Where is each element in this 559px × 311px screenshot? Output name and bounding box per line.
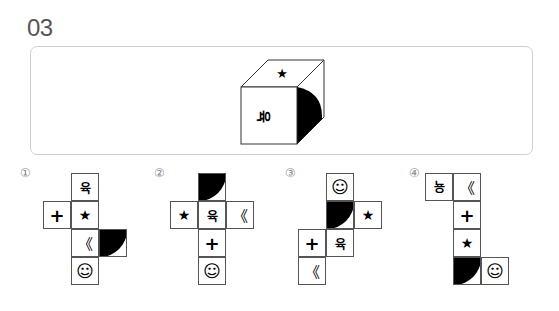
net-cell-star: ★ — [354, 201, 382, 229]
plus-icon: + — [304, 233, 319, 254]
korean-yuk-icon: 육 — [335, 235, 346, 252]
option-label-2[interactable]: ② — [154, 166, 165, 180]
net-cell-plus: + — [298, 229, 326, 257]
net-cell-star: ★ — [453, 229, 481, 257]
net-cell-quarter — [99, 229, 127, 257]
double-chevron-left-icon: 《 — [460, 177, 475, 198]
double-chevron-left-icon: 《 — [78, 233, 93, 254]
star-icon: ★ — [461, 235, 474, 251]
smiley-icon: ☺ — [203, 261, 221, 281]
black-quarter-circle-icon — [327, 202, 354, 229]
net-cell-korean-rot: 육 — [425, 173, 453, 201]
net-cell-korean: 육 — [326, 229, 354, 257]
star-icon: ★ — [79, 207, 92, 223]
star-icon: ★ — [362, 207, 375, 223]
cube-figure: ★ 육 — [236, 58, 326, 154]
korean-yuk-icon: 육 — [434, 179, 445, 196]
net-cell-chev: 《 — [453, 173, 481, 201]
smiley-icon: ☺ — [331, 177, 349, 197]
net-cell-plus: + — [198, 229, 226, 257]
net-cell-chev: 《 — [226, 201, 254, 229]
option-label-4[interactable]: ④ — [409, 166, 420, 180]
korean-yuk-icon: 육 — [207, 207, 218, 224]
svg-text:육: 육 — [256, 110, 272, 123]
net-cell-smile: ☺ — [198, 257, 226, 285]
smiley-icon: ☺ — [486, 261, 504, 281]
black-quarter-circle-icon — [454, 258, 481, 285]
option-label-1[interactable]: ① — [20, 166, 31, 180]
cube-icon: ★ 육 — [236, 58, 326, 150]
svg-text:★: ★ — [276, 66, 288, 81]
plus-icon: + — [204, 233, 219, 254]
smiley-icon: ☺ — [76, 261, 94, 281]
net-cell-korean: 육 — [71, 173, 99, 201]
korean-yuk-icon: 육 — [80, 179, 91, 196]
net-cell-quarter — [326, 201, 354, 229]
net-cell-quarter — [198, 173, 226, 201]
net-cell-korean: 육 — [198, 201, 226, 229]
plus-icon: + — [49, 205, 64, 226]
net-cell-smile: ☺ — [481, 257, 509, 285]
net-cell-plus: + — [453, 201, 481, 229]
black-quarter-circle-icon — [100, 230, 127, 257]
net-cell-chev: 《 — [298, 257, 326, 285]
question-number: 03 — [27, 14, 53, 42]
net-cell-star: ★ — [170, 201, 198, 229]
net-cell-star: ★ — [71, 201, 99, 229]
plus-icon: + — [459, 205, 474, 226]
net-cell-smile: ☺ — [71, 257, 99, 285]
net-cell-smile: ☺ — [326, 173, 354, 201]
double-chevron-left-icon: 《 — [233, 205, 248, 226]
double-chevron-left-icon: 《 — [305, 261, 320, 282]
option-label-3[interactable]: ③ — [285, 166, 296, 180]
star-icon: ★ — [178, 207, 191, 223]
net-cell-quarter — [453, 257, 481, 285]
net-cell-chev: 《 — [71, 229, 99, 257]
net-cell-plus: + — [43, 201, 71, 229]
black-quarter-circle-icon — [199, 174, 226, 201]
